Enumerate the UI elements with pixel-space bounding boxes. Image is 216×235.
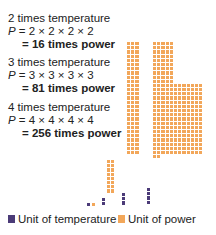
block-2x-formula: P = 2 × 2 × 2 × 2 bbox=[8, 25, 94, 38]
unit-square bbox=[195, 126, 198, 129]
unit-square bbox=[170, 80, 173, 83]
unit-square bbox=[187, 151, 190, 154]
unit-square bbox=[182, 55, 185, 58]
unit-square bbox=[147, 196, 150, 199]
unit-square bbox=[174, 101, 177, 104]
unit-square bbox=[161, 88, 164, 91]
unit-square bbox=[174, 155, 177, 158]
unit-square bbox=[107, 160, 110, 163]
unit-square bbox=[199, 84, 202, 87]
unit-square bbox=[131, 88, 134, 91]
unit-square bbox=[182, 109, 185, 112]
unit-square bbox=[166, 59, 169, 62]
unit-square bbox=[153, 138, 156, 141]
unit-square bbox=[127, 88, 130, 91]
unit-square bbox=[178, 134, 181, 137]
unit-square bbox=[161, 55, 164, 58]
unit-square bbox=[166, 113, 169, 116]
unit-square bbox=[153, 105, 156, 108]
unit-square bbox=[157, 147, 160, 150]
unit-square bbox=[157, 55, 160, 58]
unit-square bbox=[161, 46, 164, 49]
unit-square bbox=[135, 122, 138, 125]
power-symbol: P bbox=[8, 25, 16, 37]
unit-square bbox=[127, 71, 130, 74]
unit-square bbox=[195, 117, 198, 120]
unit-square bbox=[170, 84, 173, 87]
unit-square bbox=[111, 173, 114, 176]
unit-square bbox=[191, 134, 194, 137]
unit-square bbox=[111, 168, 114, 171]
unit-square bbox=[166, 46, 169, 49]
unit-square bbox=[131, 143, 134, 146]
unit-square bbox=[153, 76, 156, 79]
unit-square bbox=[178, 147, 181, 150]
unit-square bbox=[174, 67, 177, 70]
unit-square bbox=[195, 88, 198, 91]
unit-square bbox=[131, 126, 134, 129]
unit-square bbox=[166, 101, 169, 104]
unit-square bbox=[135, 92, 138, 95]
unit-square bbox=[111, 177, 114, 180]
unit-square bbox=[199, 147, 202, 150]
unit-square bbox=[191, 147, 194, 150]
unit-square bbox=[199, 55, 202, 58]
unit-square bbox=[92, 203, 95, 206]
unit-square bbox=[131, 117, 134, 120]
unit-square bbox=[174, 130, 177, 133]
unit-square bbox=[157, 67, 160, 70]
unit-square bbox=[122, 193, 125, 196]
unit-square bbox=[178, 92, 181, 95]
block-3x-formula: P = 3 × 3 × 3 × 3 bbox=[8, 69, 94, 82]
legend-power: Unit of power bbox=[118, 213, 196, 225]
unit-square bbox=[161, 92, 164, 95]
unit-square bbox=[135, 126, 138, 129]
unit-square bbox=[161, 143, 164, 146]
unit-square bbox=[174, 134, 177, 137]
unit-square bbox=[135, 134, 138, 137]
unit-square bbox=[199, 109, 202, 112]
unit-square bbox=[191, 117, 194, 120]
unit-square bbox=[199, 117, 202, 120]
unit-square bbox=[191, 105, 194, 108]
unit-square bbox=[170, 138, 173, 141]
unit-square bbox=[187, 84, 190, 87]
unit-square bbox=[157, 126, 160, 129]
unit-square bbox=[195, 63, 198, 66]
unit-square bbox=[195, 138, 198, 141]
unit-square bbox=[122, 197, 125, 200]
unit-square bbox=[131, 151, 134, 154]
unit-square bbox=[199, 105, 202, 108]
unit-square bbox=[187, 55, 190, 58]
unit-square bbox=[187, 76, 190, 79]
unit-square bbox=[135, 63, 138, 66]
unit-square bbox=[87, 203, 90, 206]
unit-square bbox=[131, 42, 134, 45]
unit-square bbox=[166, 96, 169, 99]
unit-square bbox=[157, 101, 160, 104]
unit-square bbox=[182, 50, 185, 53]
unit-square bbox=[107, 185, 110, 188]
unit-square bbox=[182, 130, 185, 133]
unit-square bbox=[135, 71, 138, 74]
unit-square bbox=[131, 113, 134, 116]
unit-square bbox=[153, 134, 156, 137]
unit-square bbox=[182, 80, 185, 83]
block-2x-title: 2 times temperature bbox=[8, 12, 110, 25]
unit-square bbox=[174, 71, 177, 74]
unit-square bbox=[182, 113, 185, 116]
unit-square bbox=[107, 164, 110, 167]
unit-square bbox=[191, 46, 194, 49]
unit-square bbox=[178, 76, 181, 79]
unit-square bbox=[195, 109, 198, 112]
unit-square bbox=[195, 143, 198, 146]
unit-square bbox=[174, 50, 177, 53]
unit-square bbox=[195, 122, 198, 125]
unit-square bbox=[182, 46, 185, 49]
power-units-3x bbox=[127, 42, 139, 154]
unit-square bbox=[187, 113, 190, 116]
unit-square bbox=[187, 92, 190, 95]
unit-square bbox=[195, 67, 198, 70]
unit-square bbox=[153, 84, 156, 87]
unit-square bbox=[166, 67, 169, 70]
